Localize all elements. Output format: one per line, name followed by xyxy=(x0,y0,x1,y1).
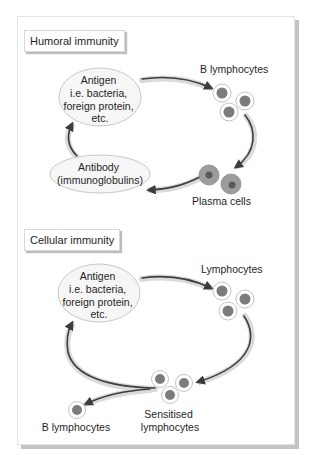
arrow-b-lymphocytes-to-plasma-cells xyxy=(236,115,253,167)
sensitised-lymphocyte-cells xyxy=(152,371,193,404)
humoral-cycle: Antigen i.e. bacteria, foreign protein, … xyxy=(50,63,268,207)
b-lymphocyte-cell xyxy=(69,402,86,419)
immunity-diagram: Antigen i.e. bacteria, foreign protein, … xyxy=(0,0,309,459)
lymphocytes-label: Lymphocytes xyxy=(201,263,262,275)
plasma-cells xyxy=(199,165,241,194)
cellular-cycle: Antigen i.e. bacteria, foreign protein, … xyxy=(42,263,263,433)
arrow-sensitised-to-antigen xyxy=(67,323,155,388)
sensitised-lymphocytes-label: Sensitised lymphocytes xyxy=(141,408,199,433)
lymphocyte-cells xyxy=(213,282,254,320)
b-lymphocytes-label: B lymphocytes xyxy=(200,63,268,75)
plasma-cells-label: Plasma cells xyxy=(192,195,251,207)
b-lymphocytes-label: B lymphocytes xyxy=(42,421,110,433)
